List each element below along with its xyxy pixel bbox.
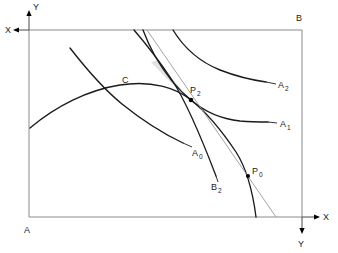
label-axis-y-top: Y <box>33 2 39 12</box>
curve-C <box>30 83 191 128</box>
label-corner-A: A <box>24 225 30 235</box>
curve-A0-path <box>70 48 183 143</box>
x-axis-left-arrowhead <box>13 27 19 32</box>
label-curve-B2-sub: 2 <box>218 187 222 194</box>
frame-box <box>29 30 302 217</box>
curve-A1 <box>143 30 277 123</box>
label-curve-A1: A 1 <box>280 119 291 131</box>
diagram-canvas: B A Y X X Y A 2 A 1 A 0 B 2 C <box>0 0 338 253</box>
label-curve-A2-base: A <box>278 80 284 90</box>
point-P2-marker <box>189 98 194 103</box>
curve-A2-leader <box>266 82 276 84</box>
frame-rectangle <box>29 30 302 217</box>
y-axis-down-arrowhead <box>299 228 304 234</box>
label-curve-A2-sub: 2 <box>285 85 289 92</box>
curve-B2 <box>134 30 218 182</box>
label-point-P2-sub: 2 <box>197 90 201 97</box>
label-curve-A0-base: A <box>192 148 198 158</box>
label-curve-A1-sub: 1 <box>287 124 291 131</box>
curve-B2-path <box>134 30 216 176</box>
label-curve-A0-sub: 0 <box>199 153 203 160</box>
curve-A2-path <box>173 30 266 82</box>
point-P0-marker <box>246 174 250 178</box>
label-curve-A0: A 0 <box>192 148 203 160</box>
curve-A2 <box>173 30 276 84</box>
curve-A0 <box>70 48 192 147</box>
label-curve-A1-base: A <box>280 119 286 129</box>
label-axis-x-left: X <box>5 25 11 35</box>
curve-A1-path-left <box>143 30 191 100</box>
label-axis-y-bottom: Y <box>298 239 304 249</box>
label-point-P0-sub: 0 <box>259 171 263 178</box>
label-point-P0: P 0 <box>252 166 263 178</box>
y-axis-up-arrowhead <box>26 10 31 16</box>
x-axis-right-arrowhead <box>314 214 320 219</box>
diagram-svg: B A Y X X Y A 2 A 1 A 0 B 2 C <box>0 0 338 253</box>
curve-C-path <box>30 83 191 128</box>
label-curve-B2: B 2 <box>211 182 222 194</box>
label-axis-x-right: X <box>323 212 329 222</box>
label-point-P2-base: P <box>190 85 196 95</box>
curve-A0-leader <box>183 143 192 147</box>
label-point-P0-base: P <box>252 166 258 176</box>
label-curve-A2: A 2 <box>278 80 289 92</box>
axis-top-left <box>13 10 32 33</box>
axis-bottom-right <box>299 214 320 234</box>
curve-A1-leader <box>268 122 277 123</box>
label-curve-C: C <box>122 75 129 85</box>
label-curve-B2-base: B <box>211 182 217 192</box>
label-corner-B: B <box>296 13 302 23</box>
